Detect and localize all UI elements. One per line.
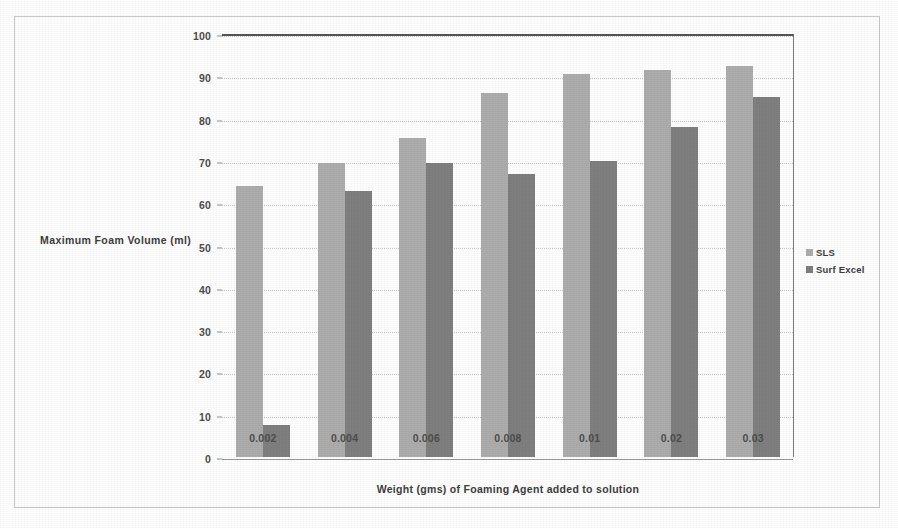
bar-group xyxy=(222,36,304,457)
bar-surf-excel[interactable] xyxy=(508,174,535,457)
y-tick-label: 70 xyxy=(165,157,211,169)
bar-group xyxy=(467,36,549,457)
bar-surf-excel[interactable] xyxy=(426,163,453,457)
bars-layer xyxy=(222,36,793,457)
y-tick-label: 20 xyxy=(165,368,211,380)
bar-surf-excel[interactable] xyxy=(590,161,617,457)
x-tick-label: 0.004 xyxy=(331,432,358,444)
y-tick-label: 80 xyxy=(165,115,211,127)
y-tick-label: 60 xyxy=(165,199,211,211)
bar-group xyxy=(712,36,794,457)
bar-sls[interactable] xyxy=(726,66,753,457)
x-tick-label: 0.01 xyxy=(579,432,600,444)
x-tick-label: 0.002 xyxy=(249,432,276,444)
x-tick-label: 0.008 xyxy=(494,432,521,444)
bar-sls[interactable] xyxy=(563,74,590,457)
bar-group xyxy=(385,36,467,457)
bar-group xyxy=(631,36,713,457)
bar-surf-excel[interactable] xyxy=(671,127,698,457)
y-tick-label: 30 xyxy=(165,326,211,338)
legend-swatch-icon xyxy=(806,266,813,273)
y-tick-label: 0 xyxy=(165,453,211,465)
bar-sls[interactable] xyxy=(318,163,345,457)
bar-sls[interactable] xyxy=(481,93,508,457)
legend-label: Surf Excel xyxy=(816,264,864,275)
bar-sls[interactable] xyxy=(236,186,263,457)
y-tick-label: 10 xyxy=(165,411,211,423)
y-tick-mark xyxy=(217,459,222,460)
bar-group xyxy=(549,36,631,457)
y-tick-label: 100 xyxy=(165,30,211,42)
bar-sls[interactable] xyxy=(399,138,426,457)
legend-label: SLS xyxy=(816,247,835,258)
bar-sls[interactable] xyxy=(644,70,671,457)
x-tick-label: 0.006 xyxy=(413,432,440,444)
bar-group xyxy=(304,36,386,457)
legend-item[interactable]: Surf Excel xyxy=(806,264,864,275)
x-tick-label: 0.03 xyxy=(743,432,764,444)
bar-surf-excel[interactable] xyxy=(345,191,372,457)
y-tick-label: 50 xyxy=(165,242,211,254)
legend: SLSSurf Excel xyxy=(806,247,864,281)
bar-chart: Maximum Foam Volume (ml) 010203040506070… xyxy=(0,0,898,528)
y-tick-label: 40 xyxy=(165,284,211,296)
x-tick-label: 0.02 xyxy=(661,432,682,444)
gridline xyxy=(222,459,793,460)
plot-area: 0102030405060708090100 xyxy=(222,34,794,457)
y-tick-label: 90 xyxy=(165,72,211,84)
bar-surf-excel[interactable] xyxy=(753,97,780,457)
x-axis-title: Weight (gms) of Foaming Agent added to s… xyxy=(222,483,794,495)
legend-swatch-icon xyxy=(806,249,813,256)
legend-item[interactable]: SLS xyxy=(806,247,864,258)
